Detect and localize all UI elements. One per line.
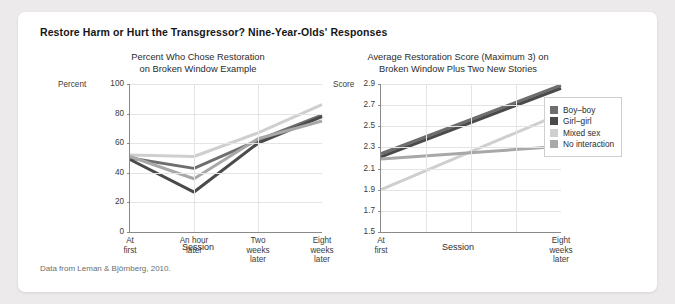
x-tick-label: Twoweekslater — [230, 236, 286, 265]
y-tick-label: 60 — [58, 138, 124, 147]
x-tick-label-line: At — [102, 236, 158, 246]
x-tick-label-line: first — [353, 246, 409, 256]
gridline-vertical — [258, 84, 259, 232]
y-tick-label: 100 — [58, 79, 124, 88]
legend-label: Girl–girl — [563, 116, 592, 126]
legend-item: No interaction — [550, 139, 614, 149]
x-tick-label-line: later — [230, 255, 286, 265]
gridline-horizontal — [130, 143, 322, 144]
series-line — [130, 121, 322, 179]
x-tick-label-line: Eight — [533, 236, 589, 246]
gridline-vertical — [516, 84, 517, 232]
figure-panel: Restore Harm or Hurt the Transgressor? N… — [18, 12, 657, 292]
gridline-vertical — [471, 84, 472, 232]
gridline-vertical — [426, 84, 427, 232]
x-tick-label-line: weeks — [230, 246, 286, 256]
gridline-horizontal — [130, 84, 322, 85]
y-tick-label: 2.1 — [323, 164, 375, 173]
x-tick-label: An hourlater — [166, 236, 222, 255]
legend: Boy–boyGirl–girlMixed sexNo interaction — [544, 97, 622, 157]
gridline-horizontal — [130, 173, 322, 174]
x-axis-line — [380, 232, 561, 233]
x-tick-label-line: weeks — [533, 246, 589, 256]
legend-swatch — [550, 140, 558, 148]
legend-label: No interaction — [563, 139, 614, 149]
y-axis-line — [380, 84, 381, 232]
chart-left-series-lines — [130, 84, 322, 232]
x-tick-label-line: At — [353, 236, 409, 246]
legend-item: Boy–boy — [550, 105, 614, 115]
y-tick-label: 20 — [58, 197, 124, 206]
y-tick-label: 1.9 — [323, 185, 375, 194]
chart-left: Percent Who Chose Restoration on Broken … — [58, 52, 338, 267]
legend-item: Girl–girl — [550, 116, 614, 126]
chart-right-title: Average Restoration Score (Maximum 3) on… — [323, 52, 593, 75]
y-tick-label: 2.7 — [323, 100, 375, 109]
series-line — [130, 105, 322, 157]
y-tick-label: 2.3 — [323, 142, 375, 151]
x-tick-label: Eightweekslater — [533, 236, 589, 265]
y-tick-label: 40 — [58, 168, 124, 177]
x-tick-label: Atfirst — [102, 236, 158, 255]
gridline-horizontal — [130, 202, 322, 203]
gridline-vertical — [194, 84, 195, 232]
x-tick-label-line: Two — [230, 236, 286, 246]
x-tick-label-line: first — [102, 246, 158, 256]
y-axis-line — [129, 84, 130, 232]
source-note: Data from Leman & Björnberg, 2010. — [40, 264, 171, 273]
x-tick-label-line: later — [533, 255, 589, 265]
x-tick-label-line: later — [166, 246, 222, 256]
gridline-horizontal — [130, 114, 322, 115]
x-axis-line — [129, 232, 322, 233]
y-tick-label: 2.5 — [323, 121, 375, 130]
legend-swatch — [550, 106, 558, 114]
chart-right-plot-area — [381, 84, 561, 232]
figure-title: Restore Harm or Hurt the Transgressor? N… — [40, 26, 387, 38]
chart-left-plot-area — [130, 84, 322, 232]
chart-left-title: Percent Who Chose Restoration on Broken … — [58, 52, 338, 75]
y-tick-label: 2.9 — [323, 79, 375, 88]
y-tick-label: 1.7 — [323, 206, 375, 215]
legend-label: Boy–boy — [563, 105, 595, 115]
legend-label: Mixed sex — [563, 128, 600, 138]
x-tick-label-line: An hour — [166, 236, 222, 246]
chart-right: Average Restoration Score (Maximum 3) on… — [323, 52, 593, 267]
y-tick-label: 0 — [58, 227, 124, 236]
legend-item: Mixed sex — [550, 128, 614, 138]
legend-swatch — [550, 129, 558, 137]
legend-swatch — [550, 117, 558, 125]
x-tick-label: Atfirst — [353, 236, 409, 255]
y-tick-label: 1.5 — [323, 227, 375, 236]
y-tick-label: 80 — [58, 109, 124, 118]
